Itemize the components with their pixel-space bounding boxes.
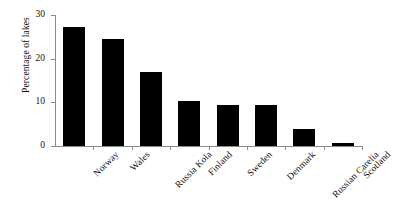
bar	[293, 129, 315, 146]
y-tick-20: 20	[51, 59, 55, 60]
x-tick-label: Denmark	[286, 150, 318, 182]
x-tick-label: Sweden	[246, 150, 274, 178]
x-tick-label: Norway	[92, 150, 121, 179]
bar	[63, 27, 85, 146]
y-tick-label-30: 30	[36, 10, 46, 20]
bar	[332, 143, 354, 146]
bar	[140, 72, 162, 146]
x-axis-labels: NorwayWalesRussia KolaFinlandSwedenDenma…	[55, 150, 373, 219]
y-axis-line	[55, 15, 56, 146]
y-tick-label-0: 0	[40, 141, 45, 151]
bar	[178, 101, 200, 146]
bar	[217, 105, 239, 146]
y-tick-30: 30	[51, 15, 55, 16]
y-tick-label-20: 20	[36, 54, 46, 64]
bar	[255, 105, 277, 146]
y-tick-0: 0	[51, 146, 55, 147]
y-tick-10: 10	[51, 102, 55, 103]
y-tick-label-10: 10	[36, 98, 46, 108]
x-tick-label: Wales	[128, 150, 151, 173]
y-axis-title: Percentage of lakes	[21, 0, 31, 115]
bar	[102, 39, 124, 146]
plot-area: 0 10 20 30	[55, 15, 362, 146]
